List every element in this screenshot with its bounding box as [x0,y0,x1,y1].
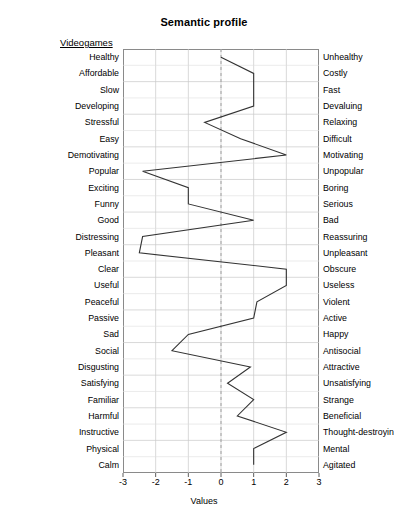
right-label-24: Mental [323,444,349,454]
semantic-profile-chart: Semantic profile Videogames HealthyAffor… [0,0,408,520]
left-label-9: Funny [95,199,119,209]
right-label-21: Strange [323,395,354,405]
left-label-1: Affordable [79,68,119,78]
right-label-4: Relaxing [323,117,357,127]
left-label-2: Slow [100,85,119,95]
right-label-10: Bad [323,215,339,225]
left-label-7: Popular [89,166,119,176]
series-legend-label: Videogames [60,37,113,48]
right-label-16: Active [323,313,347,323]
left-label-10: Good [97,215,119,225]
right-label-8: Boring [323,183,348,193]
right-label-5: Difficult [323,134,352,144]
left-label-17: Sad [103,329,119,339]
x-tick-5: 2 [271,477,301,487]
right-label-6: Motivating [323,150,363,160]
left-label-3: Developing [75,101,119,111]
x-tick-3: 0 [206,477,236,487]
right-label-3: Devaluing [323,101,362,111]
right-label-18: Antisocial [323,346,361,356]
right-label-1: Costly [323,68,347,78]
right-label-14: Useless [323,280,354,290]
left-label-6: Demotivating [68,150,119,160]
right-label-9: Serious [323,199,353,209]
left-label-19: Disgusting [78,362,119,372]
left-label-8: Exciting [88,183,119,193]
right-label-12: Unpleasant [323,248,368,258]
x-tick-4: 1 [239,477,269,487]
left-label-13: Clear [98,264,119,274]
x-tick-6: 3 [304,477,334,487]
left-label-23: Instructive [79,427,119,437]
left-label-11: Distressing [75,232,119,242]
right-label-17: Happy [323,329,348,339]
left-label-0: Healthy [89,52,119,62]
right-pole-labels: UnhealthyCostlyFastDevaluingRelaxingDiff… [323,49,408,473]
left-label-14: Useful [94,280,119,290]
right-label-25: Agitated [323,460,355,470]
left-label-12: Pleasant [85,248,119,258]
left-label-5: Easy [99,134,119,144]
x-tick-2: -1 [173,477,203,487]
x-tick-1: -2 [141,477,171,487]
left-label-15: Peaceful [85,297,119,307]
right-label-19: Attractive [323,362,360,372]
left-label-18: Social [95,346,119,356]
left-label-24: Physical [86,444,119,454]
plot-area [123,49,319,473]
chart-title: Semantic profile [0,16,408,28]
right-label-13: Obscure [323,264,356,274]
left-label-16: Passive [88,313,119,323]
right-label-20: Unsatisfying [323,378,371,388]
right-label-15: Violent [323,297,350,307]
right-label-11: Reassuring [323,232,368,242]
left-label-4: Stressful [85,117,119,127]
left-label-21: Familiar [88,395,119,405]
right-label-7: Unpopular [323,166,364,176]
x-axis-title: Values [0,496,408,506]
x-tick-0: -3 [108,477,138,487]
right-label-22: Beneficial [323,411,361,421]
left-pole-labels: HealthyAffordableSlowDevelopingStressful… [0,49,119,473]
right-label-23: Thought-destroyin [323,427,394,437]
left-label-25: Calm [98,460,119,470]
right-label-2: Fast [323,85,340,95]
left-label-20: Satisfying [81,378,119,388]
right-label-0: Unhealthy [323,52,363,62]
left-label-22: Harmful [88,411,119,421]
